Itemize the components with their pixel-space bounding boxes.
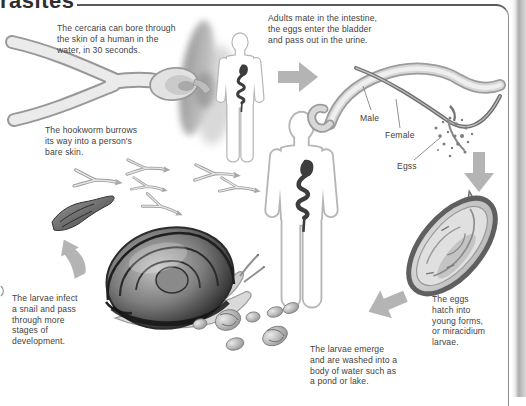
arrow-eggs-to-egg (464, 152, 494, 192)
annotation-eggs-hatch: The eggs hatch into young forms, or mira… (432, 294, 507, 348)
page-edge-artifact (1, 286, 3, 296)
hookworm-illustration (52, 196, 114, 231)
page-title-text: rasites (0, 0, 76, 13)
annotation-hookworm: The hookworm burrows its way into a pers… (45, 125, 175, 157)
arrow-egg-to-larvae (363, 282, 412, 325)
human-figure-large (266, 113, 338, 307)
annotation-adults: Adults mate in the intestine, the eggs e… (268, 13, 398, 45)
label-female: Female (385, 130, 415, 140)
arrow-human-to-worms (278, 62, 318, 92)
arrow-snail-to-cercariae (61, 240, 86, 279)
annotation-larvae-infect: The larvae infect a snail and pass throu… (12, 293, 102, 347)
annotation-larvae-emerge: The larvae emerge and are washed into a … (310, 344, 420, 387)
cercariae-swarm-illustration (74, 160, 262, 222)
egg-miracidium-illustration (392, 183, 511, 309)
page-edge (512, 0, 526, 397)
label-leader-lines (363, 86, 441, 160)
label-male: Male (360, 113, 379, 123)
label-eggs: Egss (397, 161, 417, 171)
annotation-cercaria: The cercaria can bore through the skin o… (57, 23, 202, 55)
page-title: rasites (0, 0, 76, 13)
